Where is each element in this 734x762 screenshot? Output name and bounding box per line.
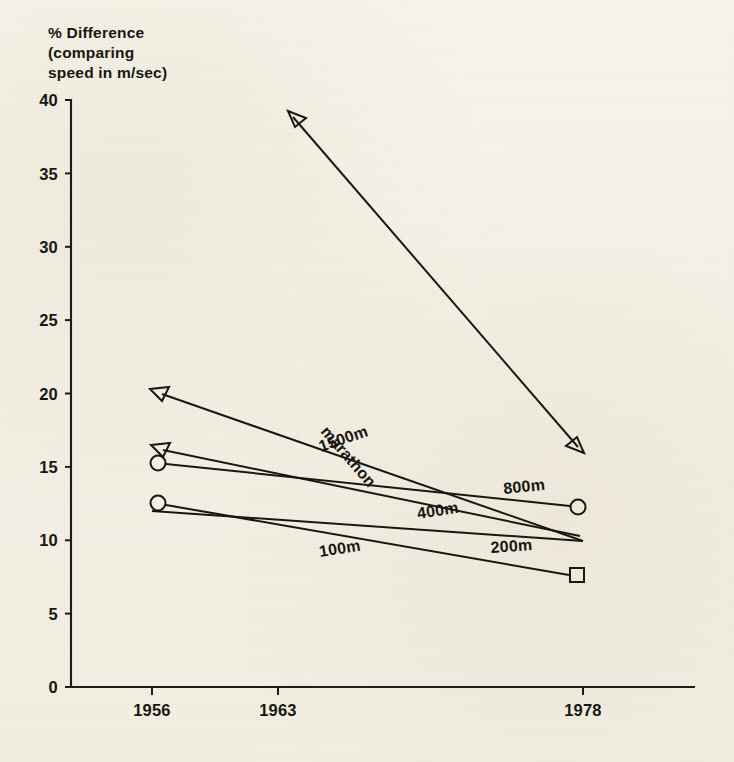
y-tick-label-20: 20 <box>39 385 58 403</box>
series-1500m-line <box>162 394 583 541</box>
series-label-100m: 100m <box>318 537 362 560</box>
x-tick-label-1963: 1963 <box>259 701 297 719</box>
series-800m-start-circle-marker <box>151 456 166 471</box>
y-axis-tick-labels: 0 5 10 15 20 25 30 35 40 <box>39 91 58 696</box>
y-tick-label-25: 25 <box>39 311 58 329</box>
x-tick-label-1956: 1956 <box>133 701 171 719</box>
series-800m-end-circle-marker <box>571 500 586 515</box>
series-800m: 800m <box>151 456 586 515</box>
y-tick-label-35: 35 <box>39 165 58 183</box>
x-axis-tick-labels: 1956 1963 1978 <box>133 701 602 719</box>
y-tick-label-10: 10 <box>39 531 58 549</box>
x-tick-label-1978: 1978 <box>564 701 602 719</box>
series-label-200m: 200m <box>490 536 533 556</box>
y-tick-label-15: 15 <box>39 458 58 476</box>
y-axis-title-line-2: (comparing <box>48 44 134 61</box>
chart-svg: % Difference (comparing speed in m/sec) … <box>0 0 734 762</box>
y-tick-label-5: 5 <box>49 605 58 623</box>
series-100m-end-square-marker <box>570 568 584 582</box>
x-axis-ticks <box>152 687 583 695</box>
y-tick-label-40: 40 <box>39 91 58 109</box>
chart-figure: % Difference (comparing speed in m/sec) … <box>0 0 734 762</box>
series-label-400m: 400m <box>416 499 460 522</box>
series-1500m-start-arrow-icon <box>150 387 169 401</box>
y-tick-label-0: 0 <box>49 678 58 696</box>
series-100m-start-circle-marker <box>151 496 166 511</box>
series-label-800m: 800m <box>503 476 546 497</box>
y-tick-label-30: 30 <box>39 238 58 256</box>
y-axis-title-line-1: % Difference <box>48 24 144 41</box>
y-axis-title-line-3: speed in m/sec) <box>48 64 167 81</box>
series-marathon-start-arrow-icon <box>288 111 306 127</box>
series-marathon-line <box>293 117 578 447</box>
